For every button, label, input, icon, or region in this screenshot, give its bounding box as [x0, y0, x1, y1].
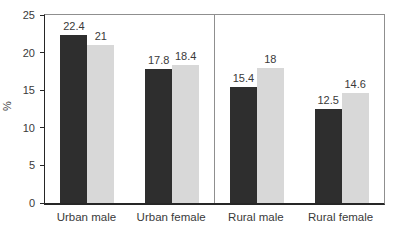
y-tick-label: 20 — [23, 46, 35, 60]
y-tick-label: 25 — [23, 8, 35, 22]
x-category-label: Urban female — [137, 210, 206, 224]
y-axis: 0510152025 — [0, 14, 44, 205]
bar-value-label: 18.4 — [175, 50, 196, 62]
bar-value-label: 18 — [264, 53, 276, 65]
plot-area: 22.42117.818.415.41812.514.6 — [44, 14, 385, 205]
x-axis: Urban maleUrban femaleRural maleRural fe… — [44, 207, 385, 231]
bar-value-label: 14.6 — [344, 78, 365, 90]
bar-value-label: 15.4 — [233, 72, 254, 84]
bar-value-label: 22.4 — [63, 20, 84, 32]
bar-value-label: 17.8 — [148, 54, 169, 66]
bar-chart: % 0510152025 22.42117.818.415.41812.514.… — [0, 0, 400, 238]
bar-light-series-0 — [87, 45, 114, 203]
y-tick-label: 0 — [29, 196, 35, 210]
bar-light-series-3 — [342, 93, 369, 203]
bar-dark-series-2 — [230, 87, 257, 203]
y-tick-label: 5 — [29, 158, 35, 172]
bar-dark-series-0 — [60, 35, 87, 203]
x-category-label: Rural male — [228, 210, 284, 224]
x-category-label: Urban male — [57, 210, 116, 224]
bar-dark-series-1 — [145, 69, 172, 203]
urban-rural-divider-line — [214, 15, 215, 203]
y-tick-label: 15 — [23, 83, 35, 97]
bar-light-series-1 — [172, 65, 199, 203]
bar-value-label: 21 — [95, 30, 107, 42]
y-tick-label: 10 — [23, 121, 35, 135]
bar-dark-series-3 — [315, 109, 342, 203]
x-category-label: Rural female — [308, 210, 373, 224]
bar-value-label: 12.5 — [317, 94, 338, 106]
bar-light-series-2 — [257, 68, 284, 203]
